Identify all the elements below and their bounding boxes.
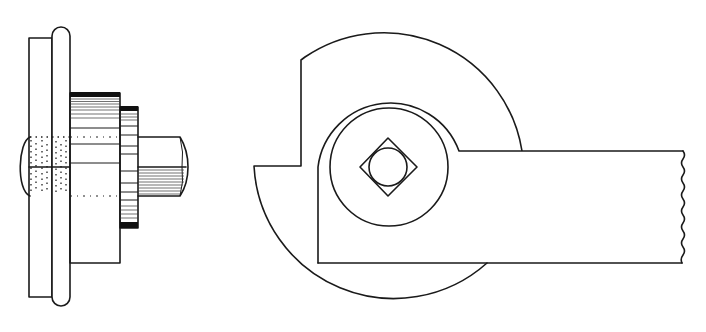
lever-arm: [318, 103, 683, 263]
washer-knurl-lines: [70, 99, 120, 163]
nut-knurl-lines: [120, 114, 138, 218]
mechanical-drawing: [0, 0, 706, 332]
front-elevation-view: [254, 33, 685, 299]
nut-bottom-band: [120, 222, 138, 228]
washer-body: [70, 93, 120, 263]
lever-break-line: [681, 151, 684, 263]
washer-top-band: [70, 92, 120, 97]
bolt-end-shading: [138, 170, 184, 194]
nut-top-band: [120, 106, 138, 111]
side-elevation-view: [20, 27, 188, 306]
